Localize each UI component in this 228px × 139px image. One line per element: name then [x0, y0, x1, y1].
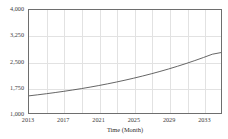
- plot-area: [28, 9, 222, 114]
- x-axis-tick-label: 2021: [84, 117, 114, 123]
- x-axis-title: Time (Month): [28, 127, 222, 133]
- x-axis-tick-label: 2029: [154, 117, 184, 123]
- x-axis-tick-label: 2033: [189, 117, 219, 123]
- x-axis-tick-label: 2025: [119, 117, 149, 123]
- chart-container: 1,0001,7502,5003,2504,000 20132017202120…: [0, 0, 228, 139]
- series-line: [29, 53, 221, 96]
- y-axis-tick-label: 3,250: [0, 32, 24, 38]
- y-axis-tick-label: 1,750: [0, 85, 24, 91]
- x-axis-tick-label: 2013: [13, 117, 43, 123]
- y-axis-tick-label: 2,500: [0, 58, 24, 64]
- series-line-chart: [29, 10, 221, 113]
- x-axis-tick-label: 2017: [48, 117, 78, 123]
- y-axis-tick-label: 4,000: [0, 6, 24, 12]
